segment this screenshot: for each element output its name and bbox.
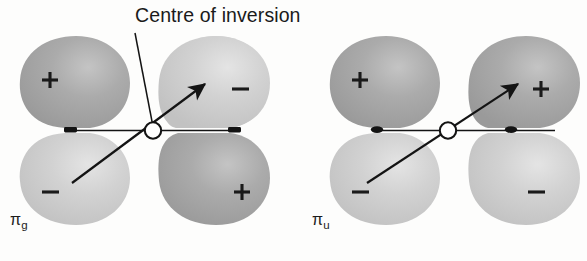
centre-of-inversion-annotation: Centre of inversion [135, 6, 301, 26]
lobe-top-left-pi-g [20, 36, 130, 128]
orbital-label-pi-g-symbol: π [10, 211, 21, 228]
nucleus-right-pi-g [228, 127, 241, 133]
nucleus-right-pi-u [505, 126, 517, 133]
orbital-label-pi-u: πu [312, 212, 330, 231]
orbital-label-pi-g: πg [10, 212, 28, 231]
figure-canvas [0, 0, 587, 261]
lobe-bottom-right-pi-u [468, 133, 580, 225]
orbital-label-pi-u-symbol: π [312, 211, 323, 228]
lobe-top-right-pi-g-shape [158, 36, 270, 128]
lobe-top-left-pi-u [330, 36, 440, 128]
annotation-leader-line [135, 33, 153, 124]
diagram-pi-u [330, 36, 580, 225]
centre-of-inversion-marker-pi-u [440, 122, 456, 138]
nucleus-left-pi-g [64, 127, 77, 133]
centre-of-inversion-marker-pi-g [145, 122, 161, 138]
lobe-top-right-pi-u [468, 36, 580, 128]
lobe-bottom-left-pi-g [20, 133, 130, 225]
orbital-symmetry-figure: Centre of inversion πg πu [0, 0, 587, 261]
orbital-label-pi-u-subscript: u [323, 219, 329, 231]
diagram-pi-g [20, 33, 270, 225]
nucleus-left-pi-u [371, 126, 383, 133]
lobe-bottom-right-pi-g [158, 133, 270, 225]
orbital-label-pi-g-subscript: g [21, 219, 27, 231]
